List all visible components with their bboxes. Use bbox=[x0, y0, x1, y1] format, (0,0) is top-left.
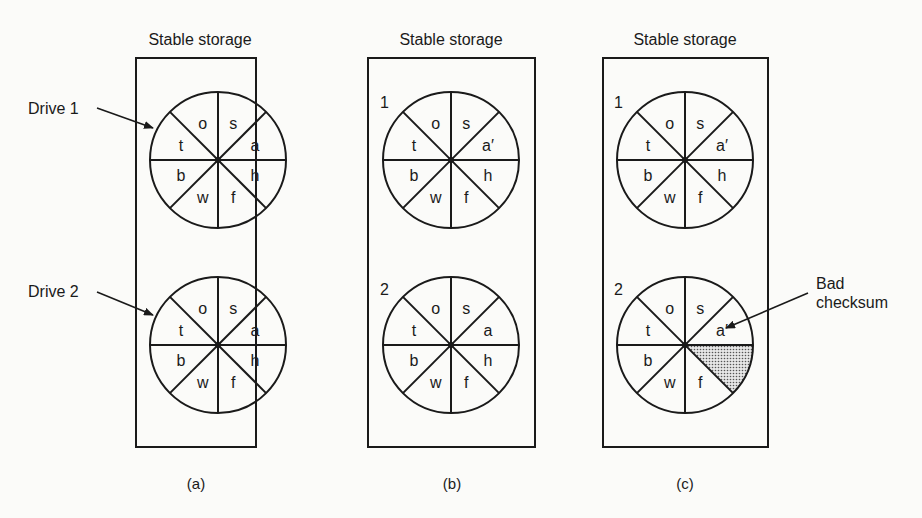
sector-label: t bbox=[179, 137, 184, 154]
sector-label: t bbox=[412, 137, 417, 154]
disk-hub bbox=[682, 342, 688, 348]
sector-label: b bbox=[410, 352, 419, 369]
panel-c-caption: (c) bbox=[676, 475, 694, 492]
stable-storage-diagram: Stable storage sahfwbto sahfwbto Drive 1… bbox=[0, 0, 922, 518]
sector-label: w bbox=[429, 189, 442, 206]
sector-label: s bbox=[462, 300, 470, 317]
sector-label: f bbox=[231, 189, 236, 206]
sector-label: w bbox=[663, 374, 676, 391]
sector-label: h bbox=[718, 167, 727, 184]
sector-label: f bbox=[698, 374, 703, 391]
sector-label: h bbox=[251, 352, 260, 369]
drive-2-label: 2 bbox=[380, 281, 389, 298]
sector-label: t bbox=[646, 137, 651, 154]
sector-label: s bbox=[696, 115, 704, 132]
drive-1-arrow-icon bbox=[97, 108, 153, 128]
disk-hub bbox=[682, 157, 688, 163]
sector-label: a′ bbox=[716, 137, 728, 154]
bad-checksum-label-line1: Bad bbox=[816, 275, 844, 292]
drive-disk: sa′hfwbto bbox=[383, 92, 519, 228]
drive-disk: sahfwbto bbox=[150, 277, 286, 413]
bad-checksum-label-line2: checksum bbox=[816, 294, 888, 311]
sector-label: o bbox=[198, 300, 207, 317]
sector-label: w bbox=[663, 189, 676, 206]
sector-label: f bbox=[464, 374, 469, 391]
disk-hub bbox=[215, 342, 221, 348]
sector-label: b bbox=[410, 167, 419, 184]
sector-label: t bbox=[412, 322, 417, 339]
sector-label: t bbox=[179, 322, 184, 339]
sector-label: h bbox=[484, 167, 493, 184]
disk-hub bbox=[448, 342, 454, 348]
sector-label: t bbox=[646, 322, 651, 339]
sector-label: s bbox=[462, 115, 470, 132]
sector-label: o bbox=[431, 115, 440, 132]
sector-label: s bbox=[696, 300, 704, 317]
drive-2-arrow-icon bbox=[97, 292, 153, 315]
sector-label: b bbox=[644, 352, 653, 369]
sector-label: a′ bbox=[716, 322, 728, 339]
sector-label: b bbox=[177, 352, 186, 369]
sector-label: o bbox=[431, 300, 440, 317]
drive-1-label: Drive 1 bbox=[28, 100, 79, 117]
panel-c: Stable storage sa′hfwbto sa′fwbto 1 2 Ba… bbox=[603, 31, 888, 492]
disk-hub bbox=[448, 157, 454, 163]
drive-disk: sa′hfwbto bbox=[617, 92, 753, 228]
sector-label: b bbox=[644, 167, 653, 184]
panel-a-title: Stable storage bbox=[148, 31, 251, 48]
sector-label: a bbox=[484, 322, 493, 339]
disk-hub bbox=[215, 157, 221, 163]
sector-label: w bbox=[196, 189, 209, 206]
sector-label: f bbox=[698, 189, 703, 206]
sector-label: b bbox=[177, 167, 186, 184]
bad-sector bbox=[685, 345, 753, 393]
drive-disk: sahfwbto bbox=[150, 92, 286, 228]
panel-b: Stable storage sa′hfwbto sahfwbto 1 2 (b… bbox=[368, 31, 535, 492]
sector-label: w bbox=[196, 374, 209, 391]
panel-b-title: Stable storage bbox=[399, 31, 502, 48]
panel-c-title: Stable storage bbox=[633, 31, 736, 48]
sector-label: h bbox=[251, 167, 260, 184]
drive-1-label: 1 bbox=[614, 94, 623, 111]
sector-label: o bbox=[198, 115, 207, 132]
drive-disk: sahfwbto bbox=[383, 277, 519, 413]
sector-label: o bbox=[665, 300, 674, 317]
sector-label: a bbox=[251, 322, 260, 339]
drive-2-label: 2 bbox=[614, 281, 623, 298]
sector-label: s bbox=[229, 115, 237, 132]
sector-label: a′ bbox=[482, 137, 494, 154]
panel-b-caption: (b) bbox=[443, 475, 461, 492]
sector-label: w bbox=[429, 374, 442, 391]
sector-label: f bbox=[464, 189, 469, 206]
panel-a: Stable storage sahfwbto sahfwbto Drive 1… bbox=[28, 31, 286, 492]
drive-2-label: Drive 2 bbox=[28, 283, 79, 300]
sector-label: o bbox=[665, 115, 674, 132]
sector-label: a bbox=[251, 137, 260, 154]
sector-label: h bbox=[484, 352, 493, 369]
sector-label: f bbox=[231, 374, 236, 391]
drive-1-label: 1 bbox=[380, 94, 389, 111]
panel-a-caption: (a) bbox=[187, 475, 205, 492]
sector-label: s bbox=[229, 300, 237, 317]
drive-disk: sa′fwbto bbox=[617, 277, 753, 413]
